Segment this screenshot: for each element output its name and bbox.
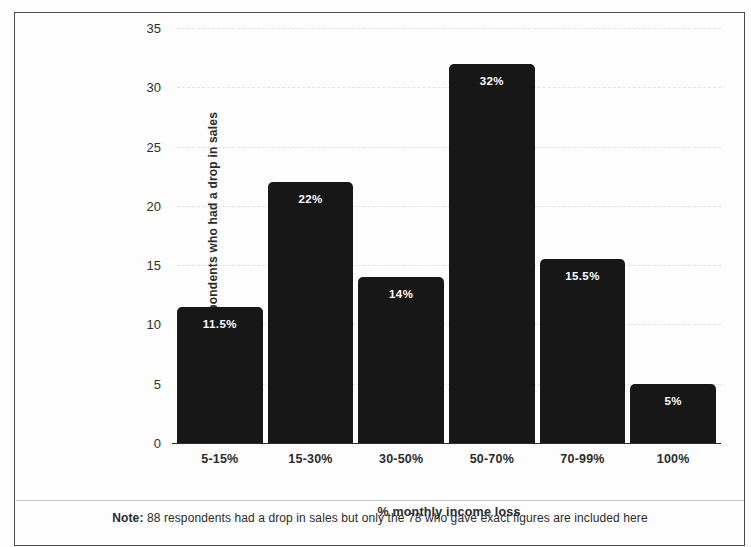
note-prefix: Note: xyxy=(112,511,143,525)
note-separator xyxy=(16,500,744,501)
y-tick-label: 30 xyxy=(121,80,161,95)
x-axis-baseline xyxy=(172,443,721,444)
bar-value-label: 5% xyxy=(630,395,716,407)
y-tick-label: 35 xyxy=(121,21,161,36)
frame-border-right xyxy=(744,12,745,546)
bar-series: 11.5%22%14%32%15.5%5% xyxy=(177,28,721,443)
plot-area: 05101520253035 % of respondents who had … xyxy=(177,28,721,443)
bar-value-label: 15.5% xyxy=(540,270,626,282)
chart-page: 05101520253035 % of respondents who had … xyxy=(0,0,751,547)
y-tick-label: 10 xyxy=(121,317,161,332)
frame-border-bottom xyxy=(14,545,744,546)
x-tick-label: 100% xyxy=(630,452,716,466)
bar[interactable]: 14% xyxy=(358,277,444,443)
y-tick-label: 15 xyxy=(121,258,161,273)
y-tick-label: 25 xyxy=(121,139,161,154)
x-tick-label: 50-70% xyxy=(449,452,535,466)
bar-value-label: 14% xyxy=(358,288,444,300)
bar[interactable]: 5% xyxy=(630,384,716,443)
bar-value-label: 22% xyxy=(268,193,354,205)
bar[interactable]: 11.5% xyxy=(177,307,263,443)
y-tick-label: 20 xyxy=(121,198,161,213)
bar[interactable]: 22% xyxy=(268,182,354,443)
bar[interactable]: 15.5% xyxy=(540,259,626,443)
note-text: 88 respondents had a drop in sales but o… xyxy=(143,511,647,525)
bar-value-label: 32% xyxy=(449,75,535,87)
frame-border-left xyxy=(14,12,15,546)
bar-value-label: 11.5% xyxy=(177,318,263,330)
x-tick-label: 30-50% xyxy=(358,452,444,466)
y-tick-label: 5 xyxy=(121,376,161,391)
x-tick-label: 70-99% xyxy=(540,452,626,466)
frame-border-top xyxy=(14,12,744,13)
bar[interactable]: 32% xyxy=(449,64,535,443)
chart-note: Note: 88 respondents had a drop in sales… xyxy=(16,511,744,525)
x-tick-label: 15-30% xyxy=(268,452,354,466)
y-tick-label: 0 xyxy=(121,436,161,451)
x-tick-label: 5-15% xyxy=(177,452,263,466)
